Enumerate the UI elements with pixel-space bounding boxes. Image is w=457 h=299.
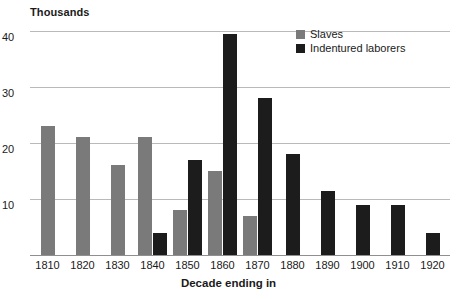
bar-1870-indentured (258, 98, 272, 255)
bar-1830-slaves (111, 165, 125, 255)
bars-layer (30, 31, 450, 255)
bar-group-1870 (240, 31, 275, 255)
bar-group-1840 (135, 31, 170, 255)
bar-1860-indentured (223, 34, 237, 255)
bar-1910-indentured (391, 205, 405, 255)
bar-1840-slaves (138, 137, 152, 255)
bar-group-1890 (310, 31, 345, 255)
legend-item-label: Slaves (310, 28, 343, 40)
y-axis-unit-caption: Thousands (30, 6, 90, 18)
bar-1860-slaves (208, 171, 222, 255)
bar-1820-slaves (76, 137, 90, 255)
bar-1890-indentured (321, 191, 335, 255)
bar-group-1920 (415, 31, 450, 255)
x-tick-label-1830: 1830 (105, 259, 129, 271)
x-tick-label-1920: 1920 (420, 259, 444, 271)
legend-item-slaves: Slaves (296, 28, 405, 40)
x-tick-label-1840: 1840 (140, 259, 164, 271)
x-tick-label-1910: 1910 (385, 259, 409, 271)
bar-group-1830 (100, 31, 135, 255)
x-tick-label-1860: 1860 (210, 259, 234, 271)
bar-chart: Thousands 10203040 181018201830184018501… (0, 0, 457, 299)
legend-swatch-icon (296, 30, 305, 39)
x-tick-label-1890: 1890 (315, 259, 339, 271)
bar-1870-slaves (243, 216, 257, 255)
bar-1880-indentured (286, 154, 300, 255)
x-tick-label-1870: 1870 (245, 259, 269, 271)
chart-legend: SlavesIndentured laborers (296, 28, 405, 56)
bar-1920-indentured (426, 233, 440, 255)
x-tick-label-1810: 1810 (35, 259, 59, 271)
bar-group-1860 (205, 31, 240, 255)
bar-group-1910 (380, 31, 415, 255)
bar-group-1880 (275, 31, 310, 255)
bar-group-1810 (30, 31, 65, 255)
y-tick-label-30: 30 (2, 87, 14, 99)
bar-group-1900 (345, 31, 380, 255)
x-axis-line (30, 255, 450, 256)
x-tick-label-1850: 1850 (175, 259, 199, 271)
y-tick-label-40: 40 (2, 31, 14, 43)
x-axis-title: Decade ending in (0, 277, 457, 289)
bar-group-1820 (65, 31, 100, 255)
y-tick-label-20: 20 (2, 143, 14, 155)
legend-swatch-icon (296, 44, 305, 53)
bar-1810-slaves (41, 126, 55, 255)
y-tick-label-10: 10 (2, 199, 14, 211)
legend-item-indentured: Indentured laborers (296, 42, 405, 54)
legend-item-label: Indentured laborers (310, 42, 405, 54)
bar-1850-slaves (173, 210, 187, 255)
bar-1840-indentured (153, 233, 167, 255)
bar-1900-indentured (356, 205, 370, 255)
bar-1850-indentured (188, 160, 202, 255)
x-tick-label-1900: 1900 (350, 259, 374, 271)
bar-group-1850 (170, 31, 205, 255)
x-tick-label-1820: 1820 (70, 259, 94, 271)
x-tick-label-1880: 1880 (280, 259, 304, 271)
